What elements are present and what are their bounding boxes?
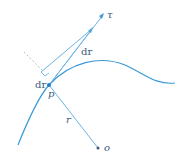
point-p-label: p xyxy=(48,88,55,99)
tau-label: τ xyxy=(107,9,113,20)
origin-point xyxy=(97,147,100,150)
dashed-extension-line xyxy=(24,52,42,70)
tangent-arrowhead-icon xyxy=(99,13,104,19)
radius-line xyxy=(49,85,98,148)
dr-vector-line xyxy=(49,29,92,85)
dr-vector-label: dr xyxy=(81,46,92,57)
radius-r-label: r xyxy=(66,114,72,125)
dr-scalar-label: dr xyxy=(35,79,46,90)
trajectory-curve xyxy=(18,61,175,145)
origin-o-label: o xyxy=(104,142,110,153)
diagram-canvas: τ dr dr p r o xyxy=(0,0,186,165)
right-angle-marker xyxy=(41,72,49,76)
point-p xyxy=(47,83,51,87)
